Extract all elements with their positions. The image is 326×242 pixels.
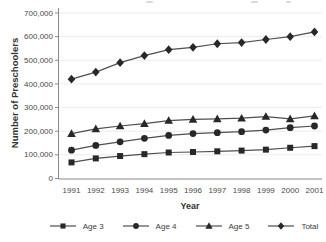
- x-tick-label: 1993: [111, 186, 129, 195]
- legend-item-total: Total: [268, 221, 318, 231]
- x-tick-label: 1998: [233, 186, 251, 195]
- chart-legend: Age 3Age 4Age 5Total: [42, 221, 326, 231]
- circle-marker: [311, 123, 318, 130]
- diamond-marker: [92, 68, 100, 77]
- square-marker: [190, 149, 196, 155]
- plot-area: 0100,000200,000300,000400,000500,000600,…: [0, 0, 326, 242]
- square-marker: [117, 153, 123, 159]
- legend-label: Total: [301, 222, 318, 231]
- diamond-marker: [311, 28, 319, 37]
- circle-marker: [214, 129, 221, 136]
- x-tick-label: 1997: [208, 186, 226, 195]
- legend-label: Age 3: [83, 222, 104, 231]
- circle-marker: [287, 124, 294, 131]
- square-marker: [239, 148, 245, 154]
- y-tick-label: 700,000: [24, 9, 53, 18]
- triangle-marker: [262, 112, 271, 120]
- diamond-marker: [116, 58, 124, 67]
- x-tick-label: 2000: [281, 186, 299, 195]
- x-tick-label: 1991: [63, 186, 81, 195]
- square-marker: [263, 147, 269, 153]
- diamond-marker: [189, 43, 197, 52]
- square-marker: [287, 145, 293, 151]
- x-tick-label: 1999: [257, 186, 275, 195]
- diamond-marker: [68, 75, 76, 84]
- y-tick-label: 600,000: [24, 32, 53, 41]
- y-axis-title: Number of Preschoolers: [9, 38, 20, 148]
- diamond-icon: [268, 221, 294, 231]
- square-marker: [214, 148, 220, 154]
- circle-marker: [92, 142, 99, 149]
- square-marker: [141, 151, 147, 157]
- x-tick-label: 1996: [184, 186, 202, 195]
- y-tick-label: 300,000: [24, 103, 53, 112]
- series-line: [72, 32, 315, 79]
- x-tick-label: 1992: [87, 186, 105, 195]
- legend-label: Age 4: [156, 222, 177, 231]
- line-chart: 0100,000200,000300,000400,000500,000600,…: [0, 0, 326, 242]
- circle-marker: [117, 138, 124, 145]
- square-marker: [60, 223, 65, 228]
- series-total: [68, 28, 319, 84]
- square-icon: [50, 221, 76, 231]
- legend-item-age-4: Age 4: [123, 221, 177, 231]
- series-age-3: [69, 143, 318, 165]
- y-tick-label: 100,000: [24, 150, 53, 159]
- series-line: [72, 126, 315, 150]
- x-tick-label: 1994: [136, 186, 154, 195]
- x-axis-title: Year: [180, 201, 199, 211]
- triangle-icon: [196, 221, 222, 231]
- diamond-marker: [286, 32, 294, 41]
- diamond-marker: [278, 222, 284, 229]
- circle-marker: [165, 132, 172, 139]
- y-tick-label: 200,000: [24, 127, 53, 136]
- square-marker: [166, 149, 172, 155]
- circle-marker: [68, 147, 75, 154]
- y-tick-label: 0: [49, 174, 54, 183]
- y-tick-label: 500,000: [24, 56, 53, 65]
- x-tick-label: 1995: [160, 186, 178, 195]
- circle-marker: [133, 223, 139, 229]
- square-marker: [93, 155, 99, 161]
- diamond-marker: [165, 45, 173, 54]
- circle-marker: [238, 128, 245, 135]
- legend-item-age-3: Age 3: [50, 221, 104, 231]
- square-marker: [312, 143, 318, 149]
- diamond-marker: [214, 39, 222, 48]
- square-marker: [69, 159, 75, 165]
- circle-marker: [141, 135, 148, 142]
- diamond-marker: [141, 51, 149, 60]
- circle-icon: [123, 221, 149, 231]
- triangle-marker: [310, 112, 319, 120]
- circle-marker: [263, 127, 270, 134]
- legend-label: Age 5: [229, 222, 250, 231]
- diamond-marker: [238, 38, 246, 47]
- y-tick-label: 400,000: [24, 80, 53, 89]
- legend-item-age-5: Age 5: [196, 221, 250, 231]
- x-tick-label: 2001: [306, 186, 324, 195]
- circle-marker: [190, 130, 197, 137]
